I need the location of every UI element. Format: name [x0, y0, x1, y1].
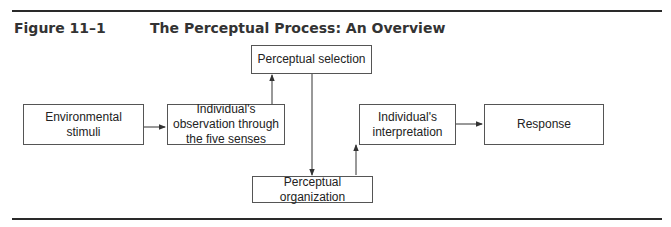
node-perceptual-selection: Perceptual selection: [251, 45, 372, 74]
node-observation: Individual's observation through the fiv…: [167, 104, 285, 145]
node-interpretation: Individual's interpretation: [359, 104, 456, 145]
node-environmental-stimuli: Environmental stimuli: [23, 104, 144, 145]
node-perceptual-organization: Perceptual organization: [252, 176, 373, 203]
node-response: Response: [484, 104, 604, 145]
bottom-rule: [12, 218, 662, 220]
